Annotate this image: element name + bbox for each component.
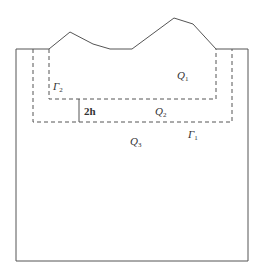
outer-boundary: [16, 49, 248, 261]
terrain-surface: [49, 18, 216, 49]
label-q3: Q3: [130, 136, 141, 149]
gamma2-boundary: [49, 49, 216, 99]
label-gamma1: Γ1: [188, 129, 198, 142]
label-q2: Q2: [155, 106, 166, 119]
label-thickness: 2h: [84, 106, 96, 117]
label-q1: Q1: [177, 70, 188, 83]
label-gamma2: Γ2: [53, 81, 63, 94]
